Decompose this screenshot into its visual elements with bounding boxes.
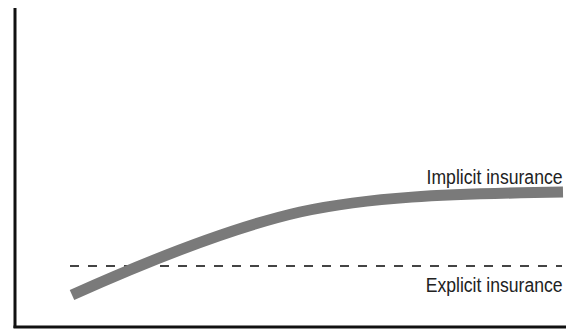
implicit-insurance-label: Implicit insurance — [427, 166, 563, 189]
explicit-insurance-label: Explicit insurance — [426, 274, 563, 297]
